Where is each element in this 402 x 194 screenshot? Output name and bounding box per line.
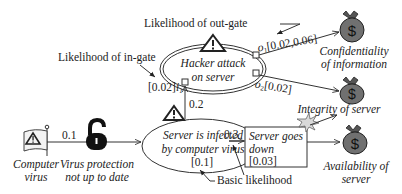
in-gate-value: [0.02]: [148, 81, 176, 93]
vulnerability-label-2: not up to date: [65, 171, 129, 184]
confidentiality-label-2: of information: [321, 58, 387, 71]
open-lock-icon[interactable]: [86, 120, 107, 150]
out-gate-pointer: [277, 24, 300, 34]
availability-label-1: Availability of: [323, 160, 391, 173]
hacker-label-2: on server: [191, 71, 235, 83]
threat-source-label-1: Computer: [13, 158, 60, 171]
svg-text:$: $: [348, 86, 356, 102]
infected-to-hacker-prob: 0.2: [189, 98, 204, 110]
in-gate-annotation: Likelihood of in-gate: [58, 51, 156, 64]
vulnerability-label-1: Virus protection: [60, 158, 134, 171]
money-bag-icon-integrity: $: [340, 77, 364, 104]
money-bag-icon-availability: $: [343, 125, 367, 154]
svg-text:$: $: [351, 135, 360, 152]
hacker-label-1: Hacker attack: [180, 57, 247, 69]
confidentiality-label-1: Confidentiality: [320, 45, 390, 58]
server-down-value: [0.03]: [249, 155, 277, 167]
warning-icon: [164, 106, 184, 120]
threat-source-flag-icon[interactable]: [24, 125, 49, 156]
in-gate-i1[interactable]: [182, 79, 188, 85]
money-bag-icon-confidentiality: $: [340, 11, 364, 42]
server-down-label-1: Server goes: [249, 130, 303, 143]
warning-icon: [201, 35, 225, 51]
server-down-node[interactable]: Server goes down [0.03]: [245, 127, 307, 167]
risk-diagram: Likelihood of out-gate Likelihood of in-…: [0, 0, 402, 194]
vulnerability-prob: 0.1: [62, 129, 77, 141]
infected-to-down-prob: 0.3: [224, 128, 239, 140]
svg-text:$: $: [348, 22, 357, 39]
in-gate-pointer: [140, 65, 155, 77]
server-infected-node[interactable]: Server is infected by computer virus [0.…: [142, 119, 260, 173]
threat-source-label-2: virus: [25, 171, 49, 183]
server-down-label-2: down: [249, 143, 274, 155]
out-gate-annotation: Likelihood of out-gate: [144, 17, 247, 30]
out-gate-o1-value: o1[0.02,0.06]: [257, 32, 318, 55]
basic-likelihood-annotation: Basic likelihood: [217, 174, 292, 186]
infected-label-2: by computer virus: [161, 143, 245, 156]
out-gate-o2[interactable]: [253, 70, 259, 76]
edge-down-to-integrity: [310, 115, 337, 125]
infected-basic-value: [0.1]: [191, 156, 213, 168]
availability-label-2: server: [342, 173, 371, 185]
